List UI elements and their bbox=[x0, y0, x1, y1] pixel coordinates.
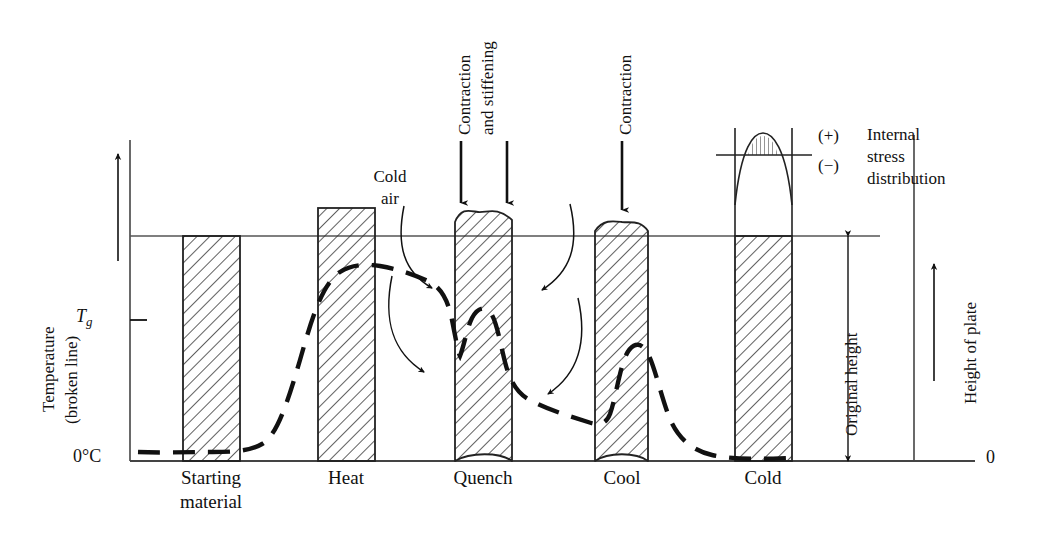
stage-label-quench: Quench bbox=[423, 468, 543, 488]
stress-title-line3: distribution bbox=[867, 170, 945, 188]
stress-negative-label: (−) bbox=[818, 157, 839, 175]
cold-air-label-line1: Cold bbox=[345, 168, 435, 186]
cold-air-arrow-lower-left bbox=[389, 276, 424, 372]
cold-air-arrow-upper-right bbox=[542, 204, 574, 290]
stress-distribution-inset bbox=[716, 128, 812, 236]
tg-tick-label: Tg bbox=[76, 307, 93, 328]
zero-celsius-tick-label: 0°C bbox=[73, 447, 101, 466]
annotation-contraction-cool: Contraction bbox=[617, 55, 635, 135]
bar-heat bbox=[318, 208, 375, 461]
right-axis-title: Height of plate bbox=[962, 302, 980, 404]
left-axis bbox=[118, 140, 147, 461]
bar-quench bbox=[455, 211, 512, 461]
cold-air-label-line2: air bbox=[345, 190, 435, 208]
bar-starting-material bbox=[183, 236, 240, 461]
stress-positive-label: (+) bbox=[818, 127, 839, 145]
stage-label-heat: Heat bbox=[286, 468, 406, 488]
bar-cold bbox=[735, 236, 792, 461]
diagram-canvas bbox=[0, 0, 1046, 534]
stage-label-cool: Cool bbox=[562, 468, 682, 488]
cold-air-arrow-upper-left bbox=[401, 206, 432, 288]
cold-air-arrow-lower-right bbox=[548, 298, 582, 394]
annotation-contraction-line1: Contraction bbox=[456, 55, 474, 135]
thermal-tempering-diagram: Temperature (broken line) Tg 0°C Startin… bbox=[0, 0, 1046, 534]
stage-label-starting-line1: Starting bbox=[151, 468, 271, 488]
stress-title-line1: Internal bbox=[867, 126, 920, 144]
stage-label-cold: Cold bbox=[703, 468, 823, 488]
annotation-stiffening-line2: and stiffening bbox=[479, 41, 497, 135]
left-axis-title-line2: (broken line) bbox=[63, 336, 81, 424]
original-height-label: Original height bbox=[843, 333, 861, 436]
stage-label-starting-line2: material bbox=[151, 492, 271, 512]
right-zero-label: 0 bbox=[986, 448, 995, 467]
stress-title-line2: stress bbox=[867, 148, 905, 166]
left-axis-title-line1: Temperature bbox=[40, 326, 58, 412]
bar-cool bbox=[595, 221, 648, 461]
